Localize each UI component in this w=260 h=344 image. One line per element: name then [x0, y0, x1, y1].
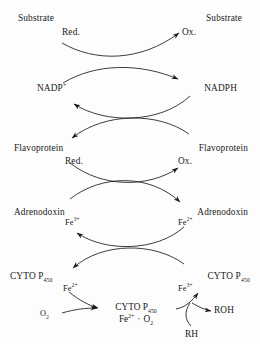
- arrow-adrenodoxin-fe3-to-fe2: [70, 181, 180, 202]
- label-adrenodoxin-right-iron-text: Fe: [178, 218, 187, 227]
- label-adrenodoxin-left-iron-text: Fe: [65, 218, 74, 227]
- label-cyto-right-text: CYTO P: [207, 271, 241, 281]
- label-substrate-left-state: Red.: [62, 28, 80, 37]
- complex-name-text: CYTO P: [115, 302, 148, 312]
- complex-iron-text: Fe: [119, 314, 128, 324]
- label-nadp-plus-text: NADP: [37, 83, 63, 93]
- arrow-o2-to-complex: [62, 308, 97, 313]
- label-substrate-rh: RH: [185, 330, 198, 339]
- arrow-junction-to-roh: [192, 303, 211, 311]
- label-adrenodoxin-left-iron-charge: 3+: [74, 216, 80, 222]
- label-oxygenated-complex: CYTO P450 Fe2+·O2: [115, 302, 156, 325]
- label-oxygen-sub: 2: [46, 314, 49, 320]
- label-substrate-right: Substrate: [206, 14, 242, 23]
- arrow-cyto-fe3-to-fe2: [73, 248, 184, 268]
- arrow-nadp-to-nadph: [63, 67, 178, 83]
- arrow-fe2-to-complex: [69, 292, 98, 308]
- complex-oxygen-text: O: [143, 314, 150, 324]
- label-cyto-left-iron: Fe2+: [63, 285, 78, 293]
- label-flavoprotein-right: Flavoprotein: [199, 144, 248, 153]
- label-adrenodoxin-right: Adrenodoxin: [197, 208, 248, 217]
- label-flavoprotein-left-state: Red.: [65, 157, 83, 166]
- p450-electron-transport-diagram: Substrate Red. Substrate Ox. NADP+ NADPH…: [0, 0, 260, 344]
- complex-oxygen-sub: 2: [150, 319, 153, 325]
- label-cyto-left: CYTO P450: [10, 272, 53, 281]
- label-nadph: NADPH: [204, 84, 237, 93]
- complex-line-1: CYTO P450: [115, 302, 156, 314]
- arrow-flavoprotein-ox-to-red: [72, 118, 189, 138]
- label-adrenodoxin-left-iron: Fe3+: [65, 219, 80, 227]
- label-cyto-right-iron-charge: 3+: [187, 282, 193, 288]
- label-cyto-right-iron: Fe3+: [178, 285, 193, 293]
- label-nadp-plus-charge: +: [63, 82, 66, 88]
- label-cyto-left-iron-charge: 2+: [72, 282, 78, 288]
- arrow-complex-to-fe3: [176, 293, 198, 309]
- arrow-nadph-to-nadp: [74, 96, 190, 118]
- label-cyto-right-iron-text: Fe: [178, 284, 187, 293]
- label-cyto-left-iron-text: Fe: [63, 284, 72, 293]
- label-product-roh: ROH: [214, 306, 234, 315]
- label-substrate-left: Substrate: [18, 14, 54, 23]
- label-adrenodoxin-right-iron-charge: 2+: [187, 216, 193, 222]
- label-nadp-plus: NADP+: [37, 84, 66, 93]
- label-flavoprotein-right-state: Ox.: [178, 157, 192, 166]
- label-substrate-right-state: Ox.: [182, 28, 196, 37]
- arrow-layer: [0, 0, 260, 344]
- label-oxygen: O2: [40, 310, 49, 318]
- label-cyto-left-text: CYTO P: [10, 271, 44, 281]
- label-adrenodoxin-right-iron: Fe2+: [178, 219, 193, 227]
- arrow-flavoprotein-red-to-ox: [70, 163, 178, 182]
- complex-dot: ·: [134, 314, 143, 324]
- arrow-adrenodoxin-fe2-to-fe3: [77, 227, 184, 247]
- label-flavoprotein-left: Flavoprotein: [14, 144, 63, 153]
- label-cyto-right: CYTO P450: [207, 272, 250, 281]
- label-cyto-left-sub: 450: [44, 277, 53, 283]
- label-cyto-right-sub: 450: [241, 277, 250, 283]
- label-adrenodoxin-left: Adrenodoxin: [14, 208, 65, 217]
- arrow-rh-to-junction: [186, 303, 191, 326]
- complex-line-2: Fe2+·O2: [115, 314, 156, 326]
